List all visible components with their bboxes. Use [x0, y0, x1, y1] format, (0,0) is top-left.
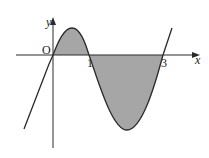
x-intercept-label-1: 1: [87, 56, 93, 70]
x-axis-label: x: [194, 53, 201, 67]
function-graph: y x O 1 3: [0, 0, 209, 158]
x-intercept-label-3: 3: [161, 56, 167, 70]
y-axis-label: y: [45, 15, 52, 29]
origin-label: O: [42, 43, 51, 57]
